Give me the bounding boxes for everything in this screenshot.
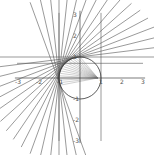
y-tick-label: -2	[73, 116, 79, 123]
x-tick-label: 1	[99, 78, 103, 85]
diagram-canvas: -3-2-1123321-1-2-3	[0, 0, 154, 155]
x-tick-label: -2	[36, 78, 42, 85]
tangent-line	[6, 0, 122, 131]
y-tick-label: 3	[73, 11, 77, 18]
y-tick-label: 2	[73, 32, 77, 39]
x-tick-label: 3	[141, 78, 145, 85]
x-tick-label: 2	[120, 78, 124, 85]
tangent-line	[13, 0, 112, 139]
chord-line	[60, 78, 98, 83]
y-tick-label: 1	[73, 53, 77, 60]
tangent-lines	[0, 0, 154, 155]
tangent-line	[30, 0, 90, 154]
chord-line	[66, 62, 98, 78]
y-tick-label: -3	[73, 137, 79, 144]
y-tick-label: -1	[73, 95, 79, 102]
axes	[15, 11, 145, 143]
x-tick-label: -3	[15, 78, 21, 85]
chord-line	[72, 58, 97, 78]
x-tick-label: -1	[57, 78, 63, 85]
